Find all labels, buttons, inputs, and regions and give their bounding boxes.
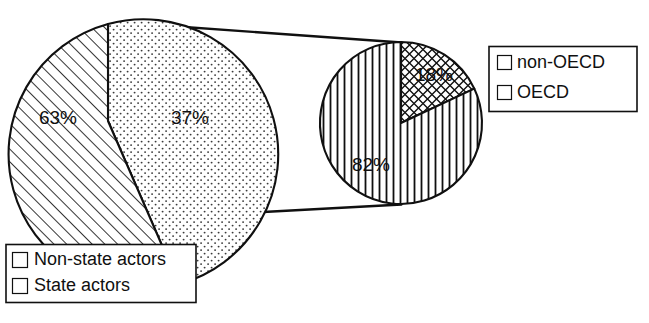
legend-swatch-vertical-icon [498,86,512,100]
legend-swatch-dots-icon [13,279,28,294]
legend-oecd-label-oecd: OECD [517,82,569,102]
detail-pie-chart: 18% 82% [320,42,482,204]
legend-actors: Non-state actors State actors [6,245,196,303]
detail-pie-label-non-oecd: 18% [415,64,453,85]
legend-swatch-diagonal-hatch-icon [13,253,28,268]
detail-pie-label-oecd: 82% [352,154,390,175]
main-pie-label-non-state-actors: 63% [39,107,77,128]
legend-actors-item-non-state[interactable]: Non-state actors [13,249,167,269]
legend-swatch-crosshatch-icon [498,56,512,70]
pie-chart-figure: 63% 37% 18% 82% non-OECD OECD [0,0,649,323]
legend-oecd-label-non-oecd: non-OECD [517,52,605,72]
main-pie-label-state-actors: 37% [171,107,209,128]
legend-actors-label-state: State actors [34,275,130,295]
legend-actors-label-non-state: Non-state actors [34,249,166,269]
legend-oecd: non-OECD OECD [489,47,637,112]
